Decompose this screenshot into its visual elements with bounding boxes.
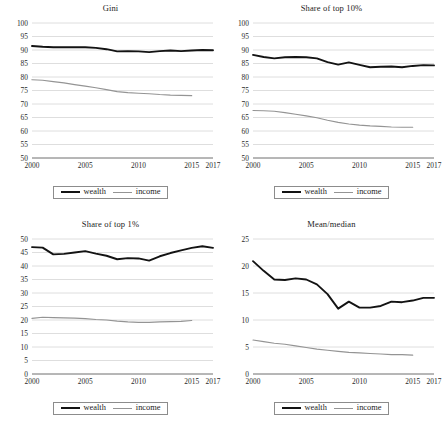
x-axis-tick-label: 2010 (352, 377, 367, 386)
legend-entry-income[interactable]: income (113, 188, 161, 196)
legend: wealth income (221, 186, 442, 199)
y-axis-tick-label: 80 (242, 73, 250, 82)
y-axis-tick-label: 30 (21, 289, 29, 298)
panel-title: Mean/median (221, 219, 442, 229)
y-axis-tick-label: 75 (21, 86, 29, 95)
legend-box: wealth income (274, 402, 390, 415)
panel-title: Share of top 1% (0, 219, 221, 229)
x-axis-tick-label: 2000 (246, 161, 261, 170)
legend-entry-income[interactable]: income (113, 404, 161, 412)
y-axis-tick-label: 65 (21, 113, 29, 122)
legend-label-wealth: wealth (305, 404, 327, 412)
legend-line-icon-income (334, 408, 353, 409)
y-axis-tick-label: 75 (242, 86, 250, 95)
legend-line-icon-income (113, 192, 132, 193)
legend-entry-income[interactable]: income (334, 404, 382, 412)
y-axis-tick-label: 100 (238, 19, 249, 28)
legend: wealth income (0, 186, 221, 199)
y-axis-tick-label: 70 (21, 100, 29, 109)
y-axis-tick-label: 55 (21, 140, 29, 149)
y-axis-tick-label: 15 (21, 329, 29, 338)
legend-entry-income[interactable]: income (334, 188, 382, 196)
x-axis-tick-label: 2017 (427, 161, 442, 170)
legend: wealth income (221, 402, 442, 415)
plot-area: 0510152025303540455020002005201020152017 (0, 233, 221, 396)
y-axis-tick-label: 10 (242, 316, 250, 325)
x-axis-tick-label: 2015 (405, 161, 420, 170)
x-axis-tick-label: 2000 (25, 161, 40, 170)
chart-panel-mean-median: Mean/median 0510152025200020052010201520… (221, 216, 442, 432)
plot-svg-3: 051015202520002005201020152017 (221, 233, 442, 396)
y-axis-tick-label: 40 (21, 262, 29, 271)
plot-area: 5055606570758085909510020002005201020152… (221, 17, 442, 180)
legend-box: wealth income (53, 186, 169, 199)
legend-line-icon-wealth (282, 191, 301, 193)
series-line-wealth (32, 46, 213, 52)
y-axis-tick-label: 35 (21, 275, 29, 284)
legend-entry-wealth[interactable]: wealth (61, 188, 106, 196)
legend-entry-wealth[interactable]: wealth (282, 188, 327, 196)
y-axis-tick-label: 5 (245, 343, 249, 352)
y-axis-tick-label: 55 (242, 140, 250, 149)
y-axis-tick-label: 65 (242, 113, 250, 122)
legend-entry-wealth[interactable]: wealth (282, 404, 327, 412)
plot-svg-2: 0510152025303540455020002005201020152017 (0, 233, 221, 396)
y-axis-tick-label: 85 (242, 59, 250, 68)
legend-box: wealth income (53, 402, 169, 415)
x-axis-tick-label: 2000 (246, 377, 261, 386)
y-axis-tick-label: 20 (242, 262, 250, 271)
x-axis-tick-label: 2015 (184, 377, 199, 386)
chart-grid: Gini 50556065707580859095100200020052010… (0, 0, 442, 432)
x-axis-tick-label: 2017 (206, 161, 221, 170)
y-axis-tick-label: 20 (21, 316, 29, 325)
legend-label-wealth: wealth (84, 188, 106, 196)
legend: wealth income (0, 402, 221, 415)
panel-title: Gini (0, 3, 221, 13)
legend-line-icon-income (334, 192, 353, 193)
legend-label-income: income (136, 404, 161, 412)
y-axis-tick-label: 25 (242, 235, 250, 244)
y-axis-tick-label: 5 (24, 356, 28, 365)
legend-line-icon-income (113, 408, 132, 409)
y-axis-tick-label: 45 (21, 248, 29, 257)
x-axis-tick-label: 2017 (206, 377, 221, 386)
x-axis-tick-label: 2010 (131, 161, 146, 170)
x-axis-tick-label: 2015 (405, 377, 420, 386)
y-axis-tick-label: 10 (21, 343, 29, 352)
series-line-income (253, 110, 413, 127)
y-axis-tick-label: 95 (242, 32, 250, 41)
y-axis-tick-label: 15 (242, 289, 250, 298)
chart-panel-gini: Gini 50556065707580859095100200020052010… (0, 0, 221, 216)
legend-entry-wealth[interactable]: wealth (61, 404, 106, 412)
plot-area: 051015202520002005201020152017 (221, 233, 442, 396)
legend-label-income: income (357, 188, 382, 196)
x-axis-tick-label: 2010 (131, 377, 146, 386)
series-line-wealth (253, 55, 434, 67)
series-line-income (253, 340, 413, 355)
y-axis-tick-label: 90 (242, 46, 250, 55)
chart-panel-share-top-1: Share of top 1% 051015202530354045502000… (0, 216, 221, 432)
x-axis-tick-label: 2005 (78, 161, 93, 170)
y-axis-tick-label: 50 (21, 235, 29, 244)
x-axis-tick-label: 2005 (78, 377, 93, 386)
x-axis-tick-label: 2015 (184, 161, 199, 170)
x-axis-tick-label: 2005 (299, 161, 314, 170)
series-line-wealth (253, 261, 434, 309)
legend-label-income: income (357, 404, 382, 412)
legend-label-wealth: wealth (84, 404, 106, 412)
legend-line-icon-wealth (61, 407, 80, 409)
chart-panel-share-top-10: Share of top 10% 50556065707580859095100… (221, 0, 442, 216)
y-axis-tick-label: 25 (21, 302, 29, 311)
legend-box: wealth income (274, 186, 390, 199)
legend-line-icon-wealth (61, 191, 80, 193)
legend-label-wealth: wealth (305, 188, 327, 196)
x-axis-tick-label: 2010 (352, 161, 367, 170)
plot-area: 5055606570758085909510020002005201020152… (0, 17, 221, 180)
panel-title: Share of top 10% (221, 3, 442, 13)
y-axis-tick-label: 70 (242, 100, 250, 109)
legend-label-income: income (136, 188, 161, 196)
legend-line-icon-wealth (282, 407, 301, 409)
plot-svg-0: 5055606570758085909510020002005201020152… (0, 17, 221, 180)
y-axis-tick-label: 60 (242, 127, 250, 136)
series-line-wealth (32, 246, 213, 260)
